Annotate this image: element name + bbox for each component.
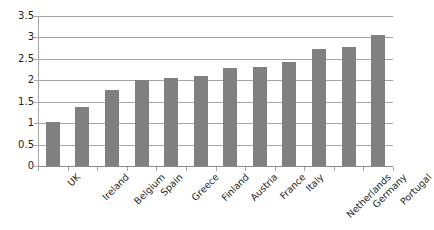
y-axis-tick-mark bbox=[34, 37, 39, 38]
x-axis-tick-mark bbox=[216, 167, 217, 171]
y-axis-tick-label: 3 bbox=[0, 32, 34, 42]
x-axis-tick-mark bbox=[97, 167, 98, 171]
gridline bbox=[38, 37, 393, 38]
y-axis-tick-mark bbox=[34, 102, 39, 103]
bar[interactable] bbox=[46, 122, 60, 166]
gridline bbox=[38, 59, 393, 60]
y-axis-tick-label: 2.5 bbox=[0, 54, 34, 64]
x-axis-tick-mark bbox=[38, 167, 39, 171]
y-axis-tick-mark bbox=[34, 16, 39, 17]
x-axis-tick-label: Finland bbox=[220, 172, 251, 203]
bar[interactable] bbox=[164, 78, 178, 166]
x-axis-tick-mark bbox=[363, 167, 364, 171]
x-axis-tick-mark bbox=[156, 167, 157, 171]
y-axis-tick-mark bbox=[34, 59, 39, 60]
x-axis-tick-mark bbox=[275, 167, 276, 171]
bar[interactable] bbox=[194, 76, 208, 166]
bar[interactable] bbox=[342, 47, 356, 166]
x-axis-tick-label: Ireland bbox=[101, 172, 131, 202]
bar[interactable] bbox=[253, 67, 267, 166]
y-axis-tick-mark bbox=[34, 145, 39, 146]
y-axis-tick-label: 1.5 bbox=[0, 97, 34, 107]
x-axis-tick-mark bbox=[186, 167, 187, 171]
gridline bbox=[38, 123, 393, 124]
bar[interactable] bbox=[371, 35, 385, 166]
y-axis-tick-label: 3.5 bbox=[0, 11, 34, 21]
bar[interactable] bbox=[75, 107, 89, 166]
gridline bbox=[38, 16, 393, 17]
x-axis-tick-labels: UKIrelandBelgiumSpainGreeceFinlandAustri… bbox=[38, 172, 405, 230]
x-axis-tick-label: Austria bbox=[249, 172, 280, 203]
plot-area bbox=[38, 16, 393, 166]
x-axis-tick-mark bbox=[334, 167, 335, 171]
bar[interactable] bbox=[312, 49, 326, 166]
x-axis-tick-mark bbox=[245, 167, 246, 171]
bar[interactable] bbox=[282, 62, 296, 166]
x-axis-tick-mark bbox=[304, 167, 305, 171]
y-axis-tick-mark bbox=[34, 123, 39, 124]
y-axis-tick-label: 2 bbox=[0, 75, 34, 85]
bar[interactable] bbox=[135, 80, 149, 166]
bar[interactable] bbox=[105, 90, 119, 166]
y-axis-tick-label: 0 bbox=[0, 161, 34, 171]
bar[interactable] bbox=[223, 68, 237, 166]
x-axis-tick-mark bbox=[393, 167, 394, 171]
gridline bbox=[38, 102, 393, 103]
x-axis-tick-mark bbox=[68, 167, 69, 171]
x-axis-tick-mark bbox=[127, 167, 128, 171]
x-axis-tick-label: Italy bbox=[304, 172, 326, 194]
x-axis-tick-label: UK bbox=[66, 172, 82, 188]
y-axis-tick-mark bbox=[34, 80, 39, 81]
y-axis-tick-labels: 00.511.522.533.5 bbox=[0, 16, 34, 166]
x-axis-tick-label: Greece bbox=[190, 172, 221, 203]
gridline bbox=[38, 145, 393, 146]
x-axis-tick-label: France bbox=[278, 172, 307, 201]
gridline bbox=[38, 80, 393, 81]
y-axis-tick-label: 1 bbox=[0, 118, 34, 128]
y-axis-tick-label: 0.5 bbox=[0, 140, 34, 150]
